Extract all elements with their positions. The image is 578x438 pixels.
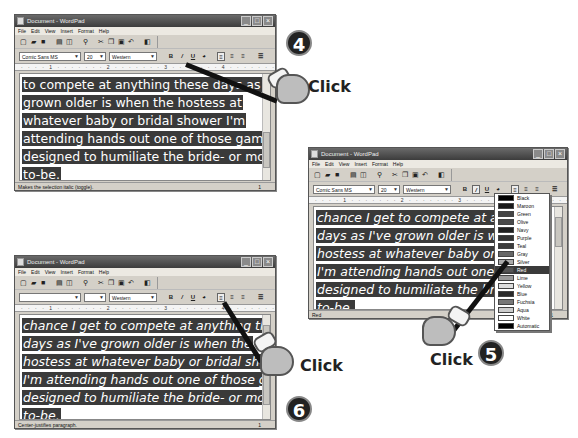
script-combo[interactable]: Western▼ [403,185,451,194]
color-option-navy[interactable]: Navy [495,226,549,234]
menu-file[interactable]: File [18,27,26,35]
color-option-white[interactable]: White [495,314,549,322]
bullets-button[interactable]: ☰ [256,52,264,61]
align-left-button[interactable]: ≡ [217,52,225,61]
menu-insert[interactable]: Insert [60,268,73,276]
italic-button[interactable]: / [472,185,480,194]
ruler[interactable]: · · · · 1 · · · · · · · 2 · · · · · · · … [15,63,275,71]
align-left-button[interactable]: ≡ [217,293,225,302]
paste-icon[interactable]: ▣ [117,279,125,287]
menu-format[interactable]: Format [78,268,94,276]
color-option-blue[interactable]: Blue [495,290,549,298]
copy-icon[interactable]: ❐ [107,38,115,46]
menu-format[interactable]: Format [372,160,388,168]
print-preview-icon[interactable]: ◫ [65,279,73,287]
date-time-icon[interactable]: ◧ [143,38,151,46]
color-button[interactable]: ◕ [200,52,208,61]
font-name-combo[interactable]: ▼ [19,293,81,302]
minimize-icon[interactable]: _ [241,16,251,26]
save-icon[interactable]: ■ [39,279,47,287]
open-icon[interactable]: ▰ [29,279,37,287]
bullets-button[interactable]: ☰ [550,185,558,194]
menu-view[interactable]: View [45,268,56,276]
bold-button[interactable]: B [461,185,469,194]
menu-help[interactable]: Help [99,27,109,35]
open-icon[interactable]: ▰ [323,171,331,179]
undo-icon[interactable]: ↶ [127,38,135,46]
date-time-icon[interactable]: ◧ [143,279,151,287]
menu-view[interactable]: View [339,160,350,168]
font-name-combo[interactable]: Comic Sans MS▼ [313,185,375,194]
document-area[interactable]: to compete at anything these days as I'v… [19,73,271,181]
document-area[interactable]: chance I get to compete at anything thes… [19,314,271,420]
align-right-button[interactable]: ≡ [239,293,247,302]
menu-view[interactable]: View [45,27,56,35]
underline-button[interactable]: U [189,293,197,302]
underline-button[interactable]: U [189,52,197,61]
menu-edit[interactable]: Edit [31,27,40,35]
chevron-down-icon[interactable]: ▼ [98,53,105,60]
save-icon[interactable]: ■ [39,38,47,46]
print-preview-icon[interactable]: ◫ [65,38,73,46]
color-option-gray[interactable]: Gray [495,250,549,258]
cut-icon[interactable]: ✂ [97,279,105,287]
font-name-combo[interactable]: Comic Sans MS▼ [19,52,81,61]
close-icon[interactable]: × [263,257,273,267]
chevron-down-icon[interactable]: ▼ [149,53,156,60]
cut-icon[interactable]: ✂ [97,38,105,46]
bold-button[interactable]: B [167,52,175,61]
chevron-down-icon[interactable]: ▼ [392,186,399,193]
undo-icon[interactable]: ↶ [421,171,429,179]
menu-help[interactable]: Help [99,268,109,276]
vertical-scrollbar[interactable] [554,207,562,309]
minimize-icon[interactable]: _ [241,257,251,267]
menu-format[interactable]: Format [78,27,94,35]
chevron-down-icon[interactable]: ▼ [73,294,80,301]
paste-icon[interactable]: ▣ [117,38,125,46]
menu-edit[interactable]: Edit [325,160,334,168]
font-size-combo[interactable]: 20▼ [84,52,106,61]
scroll-thumb[interactable] [263,132,270,168]
color-option-maroon[interactable]: Maroon [495,202,549,210]
color-option-olive[interactable]: Olive [495,218,549,226]
ruler[interactable]: · · · · 1 · · · · · · · 2 · · · · · · · … [15,304,275,312]
color-option-automatic[interactable]: Automatic [495,322,549,330]
menu-help[interactable]: Help [393,160,403,168]
bullets-button[interactable]: ☰ [256,293,264,302]
new-icon[interactable]: ▢ [19,38,27,46]
align-center-button[interactable]: ≡ [228,293,236,302]
copy-icon[interactable]: ❐ [401,171,409,179]
scroll-thumb[interactable] [555,217,562,247]
undo-icon[interactable]: ↶ [127,279,135,287]
font-size-combo[interactable]: 20▼ [378,185,400,194]
print-icon[interactable]: ▤ [55,38,63,46]
chevron-down-icon[interactable]: ▼ [73,53,80,60]
print-icon[interactable]: ▤ [55,279,63,287]
maximize-icon[interactable]: □ [252,16,262,26]
color-option-yellow[interactable]: Yellow [495,282,549,290]
color-option-green[interactable]: Green [495,210,549,218]
script-combo[interactable]: Western▼ [109,293,157,302]
find-icon[interactable]: ⚲ [81,279,89,287]
copy-icon[interactable]: ❐ [107,279,115,287]
minimize-icon[interactable]: _ [533,149,543,159]
print-icon[interactable]: ▤ [349,171,357,179]
save-icon[interactable]: ■ [333,171,341,179]
italic-button[interactable]: / [178,293,186,302]
menu-file[interactable]: File [312,160,320,168]
color-option-lime[interactable]: Lime [495,274,549,282]
color-option-teal[interactable]: Teal [495,242,549,250]
chevron-down-icon[interactable]: ▼ [443,186,450,193]
close-icon[interactable]: × [263,16,273,26]
color-option-black[interactable]: Black [495,194,549,202]
find-icon[interactable]: ⚲ [375,171,383,179]
color-button[interactable]: ◕ [200,293,208,302]
cut-icon[interactable]: ✂ [391,171,399,179]
align-right-button[interactable]: ≡ [239,52,247,61]
maximize-icon[interactable]: □ [252,257,262,267]
color-option-fuchsia[interactable]: Fuchsia [495,298,549,306]
color-option-purple[interactable]: Purple [495,234,549,242]
paste-icon[interactable]: ▣ [411,171,419,179]
menu-file[interactable]: File [18,268,26,276]
vertical-scrollbar[interactable] [262,74,270,180]
